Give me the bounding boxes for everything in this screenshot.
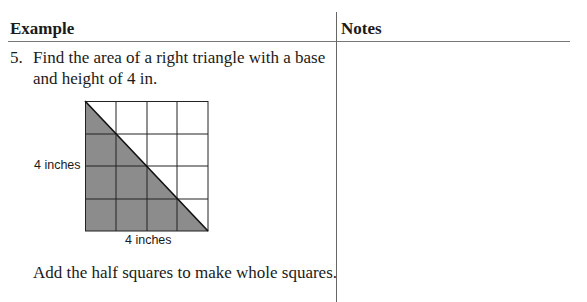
left-dimension-label: 4 inches bbox=[34, 158, 81, 172]
hint-text: Add the half squares to make whole squar… bbox=[33, 263, 337, 283]
triangle-grid-figure bbox=[0, 0, 587, 302]
bottom-dimension-label: 4 inches bbox=[125, 233, 172, 247]
